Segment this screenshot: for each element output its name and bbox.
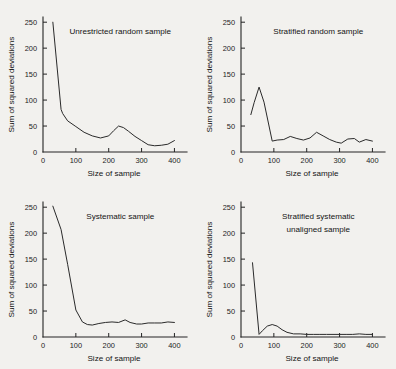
panel-systematic-sample: 0501001502002500100200300400Size of samp… xyxy=(0,185,198,369)
panel-title-line-0: Stratified systematic xyxy=(282,212,354,221)
y-tick-label-250: 250 xyxy=(25,18,37,27)
figure-four-panel-sampling-comparison: 0501001502002500100200300400Size of samp… xyxy=(0,0,396,369)
data-series-line xyxy=(53,206,175,325)
y-tick-label-100: 100 xyxy=(25,281,37,290)
x-axis-title: Size of sample xyxy=(87,169,141,178)
x-tick-label-400: 400 xyxy=(366,156,378,165)
x-tick-label-200: 200 xyxy=(301,156,313,165)
x-tick-label-0: 0 xyxy=(41,156,45,165)
x-tick-label-0: 0 xyxy=(41,341,45,350)
x-tick-label-300: 300 xyxy=(135,341,147,350)
y-tick-label-200: 200 xyxy=(223,229,235,238)
y-axis-title: Sum of squared deviations xyxy=(7,222,16,318)
y-tick-label-250: 250 xyxy=(223,203,235,212)
chart-1-svg: 0501001502002500100200300400Size of samp… xyxy=(198,0,396,184)
y-tick-label-50: 50 xyxy=(29,307,37,316)
y-tick-label-50: 50 xyxy=(29,122,37,131)
y-tick-label-150: 150 xyxy=(223,70,235,79)
x-tick-label-400: 400 xyxy=(366,341,378,350)
panel-title-line-1: unaligned sample xyxy=(287,225,351,234)
x-tick-label-400: 400 xyxy=(168,341,180,350)
panel-stratified-systematic-unaligned-sample: 0501001502002500100200300400Size of samp… xyxy=(198,185,396,369)
x-tick-label-100: 100 xyxy=(268,341,280,350)
x-tick-label-200: 200 xyxy=(103,156,115,165)
y-axis-title: Sum of squared deviations xyxy=(205,222,214,318)
x-tick-label-300: 300 xyxy=(333,156,345,165)
y-tick-label-0: 0 xyxy=(33,148,37,157)
y-tick-label-50: 50 xyxy=(227,307,235,316)
y-tick-label-250: 250 xyxy=(223,18,235,27)
y-tick-label-50: 50 xyxy=(227,122,235,131)
panel-stratified-random-sample: 0501001502002500100200300400Size of samp… xyxy=(198,0,396,184)
y-tick-label-100: 100 xyxy=(223,96,235,105)
y-tick-label-0: 0 xyxy=(231,333,235,342)
y-tick-label-200: 200 xyxy=(223,44,235,53)
x-tick-label-300: 300 xyxy=(135,156,147,165)
y-tick-label-100: 100 xyxy=(223,281,235,290)
x-tick-label-0: 0 xyxy=(239,156,243,165)
chart-0-svg: 0501001502002500100200300400Size of samp… xyxy=(0,0,198,184)
x-tick-label-200: 200 xyxy=(301,341,313,350)
x-tick-label-400: 400 xyxy=(168,156,180,165)
panel-title-line-0: Systematic sample xyxy=(86,212,154,221)
y-tick-label-0: 0 xyxy=(33,333,37,342)
y-tick-label-100: 100 xyxy=(25,96,37,105)
data-series-line xyxy=(251,87,373,143)
x-axis-title: Size of sample xyxy=(285,169,339,178)
y-tick-label-150: 150 xyxy=(25,255,37,264)
x-tick-label-200: 200 xyxy=(103,341,115,350)
chart-3-svg: 0501001502002500100200300400Size of samp… xyxy=(198,185,396,369)
x-tick-label-100: 100 xyxy=(70,156,82,165)
chart-2-svg: 0501001502002500100200300400Size of samp… xyxy=(0,185,198,369)
data-series-line xyxy=(53,22,175,146)
panel-unrestricted-random-sample: 0501001502002500100200300400Size of samp… xyxy=(0,0,198,184)
y-axis-title: Sum of squared deviations xyxy=(205,37,214,133)
y-tick-label-150: 150 xyxy=(25,70,37,79)
x-tick-label-100: 100 xyxy=(268,156,280,165)
y-tick-label-0: 0 xyxy=(231,148,235,157)
x-tick-label-300: 300 xyxy=(333,341,345,350)
panel-title-line-0: Stratified random sample xyxy=(273,27,363,36)
y-tick-label-200: 200 xyxy=(25,229,37,238)
data-series-line xyxy=(253,263,373,335)
x-tick-label-0: 0 xyxy=(239,341,243,350)
y-tick-label-150: 150 xyxy=(223,255,235,264)
x-axis-title: Size of sample xyxy=(285,354,339,363)
x-axis-title: Size of sample xyxy=(87,354,141,363)
y-tick-label-200: 200 xyxy=(25,44,37,53)
y-axis-title: Sum of squared deviations xyxy=(7,37,16,133)
y-tick-label-250: 250 xyxy=(25,203,37,212)
panel-title-line-0: Unrestricted random sample xyxy=(69,27,171,36)
x-tick-label-100: 100 xyxy=(70,341,82,350)
